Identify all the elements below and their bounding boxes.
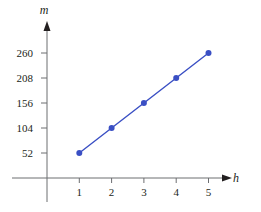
data-point	[173, 75, 179, 81]
data-point	[109, 125, 115, 131]
data-point	[76, 150, 82, 156]
y-tick-label: 52	[22, 147, 33, 159]
y-axis-arrow-icon	[44, 21, 51, 31]
data-series	[76, 50, 211, 156]
y-tick-label: 104	[17, 122, 34, 134]
x-tick-label: 3	[141, 186, 147, 198]
axes	[12, 21, 232, 202]
y-tick-label: 156	[17, 97, 34, 109]
x-tick-label: 5	[206, 186, 212, 198]
data-point	[141, 100, 147, 106]
x-axis-arrow-icon	[222, 175, 232, 182]
y-axis-label: m	[40, 3, 49, 17]
data-point	[206, 50, 212, 56]
y-tick-label: 260	[17, 47, 34, 59]
ticks: 1234552104156208260	[17, 47, 212, 198]
line-chart: 1234552104156208260 m h	[0, 0, 261, 212]
x-tick-label: 1	[77, 186, 83, 198]
y-tick-label: 208	[17, 72, 34, 84]
x-axis-label: h	[233, 171, 239, 185]
x-tick-label: 2	[109, 186, 115, 198]
x-tick-label: 4	[173, 186, 179, 198]
